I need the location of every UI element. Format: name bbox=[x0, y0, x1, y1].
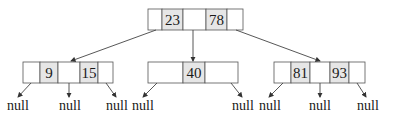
left-pointer-cell-2 bbox=[98, 62, 113, 83]
edge-root-right bbox=[236, 30, 320, 61]
edge-middle-null-1 bbox=[231, 83, 242, 97]
right-pointer-cell-2 bbox=[349, 62, 365, 83]
left-pointer-cell-1 bbox=[58, 62, 80, 83]
root-pointer-cell-2 bbox=[227, 9, 243, 30]
root-pointer-cell-1 bbox=[183, 9, 206, 30]
right-pointer-cell-0 bbox=[274, 62, 291, 83]
left-pointer-cell-0 bbox=[23, 62, 40, 83]
root-node: 23 78 bbox=[148, 9, 243, 30]
null-label: null bbox=[132, 98, 154, 113]
edge-left-null-2 bbox=[106, 83, 116, 97]
edge-left-null-0 bbox=[18, 83, 31, 97]
right-key-93: 93 bbox=[332, 65, 347, 81]
null-label: null bbox=[259, 98, 281, 113]
edge-root-left bbox=[71, 30, 156, 61]
middle-node: 40 bbox=[148, 62, 238, 83]
null-label: null bbox=[309, 98, 331, 113]
null-label: null bbox=[106, 98, 128, 113]
root-key-78: 78 bbox=[209, 12, 224, 28]
edge-middle-null-0 bbox=[143, 83, 157, 97]
middle-pointer-cell-1 bbox=[205, 62, 238, 83]
null-label: null bbox=[357, 98, 379, 113]
null-label: null bbox=[232, 98, 254, 113]
edge-right-null-2 bbox=[357, 83, 366, 97]
null-label: null bbox=[7, 98, 29, 113]
edge-right-null-0 bbox=[269, 83, 283, 97]
null-label: null bbox=[59, 98, 81, 113]
left-node: 9 15 bbox=[23, 62, 113, 83]
b-tree-diagram: 23 78 9 15 null null null 40 null null 8… bbox=[0, 0, 393, 120]
right-node: 81 93 bbox=[274, 62, 365, 83]
middle-pointer-cell-0 bbox=[148, 62, 183, 83]
middle-key-40: 40 bbox=[187, 65, 202, 81]
left-key-9: 9 bbox=[45, 65, 53, 81]
left-key-15: 15 bbox=[82, 65, 97, 81]
right-key-81: 81 bbox=[293, 65, 308, 81]
root-key-23: 23 bbox=[165, 12, 180, 28]
root-pointer-cell-0 bbox=[148, 9, 162, 30]
right-pointer-cell-1 bbox=[310, 62, 330, 83]
